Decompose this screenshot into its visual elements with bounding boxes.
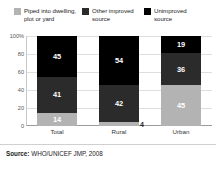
source-line: Source: WHO/UNICEF JMP, 2008 xyxy=(6,150,216,157)
bar-value-label: 41 xyxy=(53,91,61,98)
stacked-bar[interactable]: 193645 xyxy=(161,36,201,126)
y-tick-label: 20 xyxy=(18,105,24,111)
bar-segment[interactable] xyxy=(99,122,139,126)
y-axis: 100%806040200 xyxy=(0,36,26,126)
bar-column: 193645 xyxy=(150,36,212,126)
source-text: WHO/UNICEF JMP, 2008 xyxy=(31,150,103,157)
y-tick-label: 0 xyxy=(21,123,24,129)
bar-segment[interactable]: 45 xyxy=(37,36,77,77)
legend-swatch-icon-other-improved xyxy=(82,8,89,15)
legend-swatch-icon-unimproved xyxy=(144,8,151,15)
chart-figure: Piped into dwelling, plot or yard Other … xyxy=(0,0,216,172)
y-tick-label: 40 xyxy=(18,87,24,93)
plot-area: 100%806040200 45411445442193645 TotalRur… xyxy=(0,36,216,140)
bar-value-label: 19 xyxy=(177,41,185,48)
bar-column: 45442 xyxy=(88,36,150,126)
bar-value-label: 45 xyxy=(53,53,61,60)
x-tick-label: Urban xyxy=(150,128,212,135)
legend-swatch-icon-piped xyxy=(14,8,21,15)
chart-legend: Piped into dwelling, plot or yard Other … xyxy=(0,0,216,36)
legend-label-other-improved: Other improved source xyxy=(92,7,144,22)
bar-segment[interactable]: 36 xyxy=(161,53,201,85)
legend-label-unimproved: Unimproved source xyxy=(154,7,202,22)
bar-segment[interactable]: 54 xyxy=(99,36,139,85)
y-tick-label: 80 xyxy=(18,51,24,57)
bar-segment[interactable]: 42 xyxy=(99,85,139,123)
x-tick-label: Rural xyxy=(88,128,150,135)
x-axis: TotalRuralUrban xyxy=(26,128,212,135)
y-tick-label: 60 xyxy=(18,69,24,75)
bar-value-label: 54 xyxy=(115,57,123,64)
source-footer: Source: WHO/UNICEF JMP, 2008 xyxy=(0,144,216,172)
bar-segment[interactable]: 41 xyxy=(37,77,77,114)
bar-column: 454114 xyxy=(26,36,88,126)
legend-item-other-improved: Other improved source xyxy=(82,7,144,22)
x-tick-label: Total xyxy=(26,128,88,135)
bar-segment[interactable]: 19 xyxy=(161,36,201,53)
bar-segment[interactable]: 45 xyxy=(161,85,201,126)
bar-value-label: 36 xyxy=(177,66,185,73)
legend-item-piped: Piped into dwelling, plot or yard xyxy=(0,7,82,22)
stacked-bar[interactable]: 5442 xyxy=(99,36,139,126)
legend-item-unimproved: Unimproved source xyxy=(144,7,202,22)
bar-value-label: 14 xyxy=(53,116,61,123)
legend-label-piped: Piped into dwelling, plot or yard xyxy=(24,7,82,22)
source-prefix: Source: xyxy=(6,150,29,157)
bar-value-label: 45 xyxy=(177,102,185,109)
stacked-bar[interactable]: 454114 xyxy=(37,36,77,126)
bar-group: 45411445442193645 xyxy=(26,36,212,126)
y-tick-label: 100% xyxy=(10,33,24,39)
bar-value-label: 42 xyxy=(115,100,123,107)
bar-segment[interactable]: 14 xyxy=(37,113,77,126)
